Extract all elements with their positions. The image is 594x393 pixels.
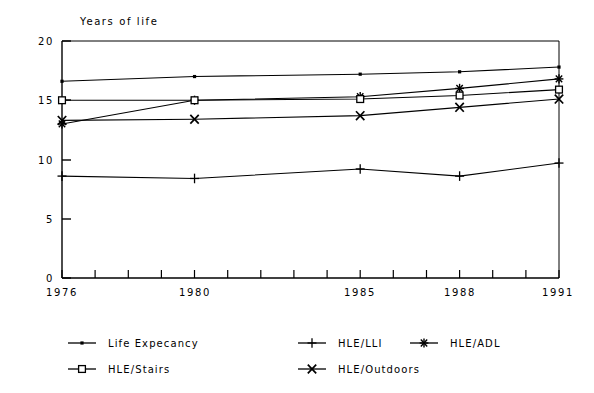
- legend-item-life-expecancy[interactable]: Life Expecancy: [68, 338, 199, 349]
- y-axis-ticks: [62, 41, 71, 278]
- series-hle-adl: [58, 74, 564, 128]
- data-point: [555, 158, 564, 168]
- x-tick-label-1985: 1985: [344, 287, 376, 298]
- data-point: [458, 70, 461, 73]
- data-point: [191, 97, 198, 104]
- data-point: [555, 74, 564, 83]
- data-point: [356, 164, 365, 174]
- chart-root: 20 15 10 5 0 1976 1980 1985 1988 1991 Ye…: [0, 0, 594, 393]
- series-hle-lli: [58, 158, 564, 183]
- legend-item-hle-lli[interactable]: HLE/LLI: [298, 338, 383, 349]
- legend-label-3: HLE/Stairs: [108, 364, 170, 375]
- y-tick-label-20: 20: [38, 36, 54, 47]
- asterisk-icon: [410, 338, 438, 347]
- data-point: [557, 65, 560, 68]
- y-tick-label-5: 5: [46, 214, 54, 225]
- series-layer: [58, 65, 564, 183]
- y-tick-label-15: 15: [38, 95, 54, 106]
- data-point: [58, 171, 67, 181]
- data-point: [556, 86, 563, 93]
- small-square-dot-icon: [68, 341, 96, 344]
- x-tick-label-1980: 1980: [179, 287, 211, 298]
- series-line: [62, 90, 559, 101]
- series-hle-stairs: [59, 86, 563, 103]
- x-tick-label-1976: 1976: [46, 287, 78, 298]
- data-point: [359, 73, 362, 76]
- data-point: [357, 96, 364, 103]
- series-line: [62, 99, 559, 120]
- y-axis-title: Years of life: [79, 16, 158, 27]
- open-square-icon: [68, 366, 96, 373]
- data-point: [190, 174, 199, 184]
- line-chart: 20 15 10 5 0 1976 1980 1985 1988 1991 Ye…: [0, 0, 594, 393]
- data-point: [60, 80, 63, 83]
- y-tick-labels: 20 15 10 5 0: [38, 36, 54, 284]
- legend-label-0: Life Expecancy: [108, 338, 199, 349]
- y-tick-label-10: 10: [38, 155, 54, 166]
- x-axis-ticks: [62, 270, 559, 278]
- data-point: [456, 92, 463, 99]
- x-tick-label-1988: 1988: [444, 287, 476, 298]
- legend-label-1: HLE/LLI: [338, 338, 383, 349]
- legend-label-2: HLE/ADL: [450, 338, 501, 349]
- series-life-expecancy: [60, 65, 560, 82]
- legend-item-hle-stairs[interactable]: HLE/Stairs: [68, 364, 170, 375]
- data-point: [193, 75, 196, 78]
- series-line: [62, 163, 559, 178]
- plus-icon: [298, 338, 326, 348]
- legend: Life Expecancy HLE/LLI HLE/ADL HLE/Stair…: [68, 338, 501, 375]
- legend-item-hle-outdoors[interactable]: HLE/Outdoors: [298, 364, 420, 375]
- x-tick-labels: 1976 1980 1985 1988 1991: [46, 287, 574, 298]
- y-tick-label-0: 0: [46, 273, 54, 284]
- x-cross-icon: [298, 365, 326, 374]
- data-point: [455, 171, 464, 181]
- plot-frame: [62, 41, 559, 278]
- series-line: [62, 67, 559, 81]
- data-point: [59, 97, 66, 104]
- legend-item-hle-adl[interactable]: HLE/ADL: [410, 338, 501, 349]
- legend-label-4: HLE/Outdoors: [338, 364, 420, 375]
- x-tick-label-1991: 1991: [542, 287, 574, 298]
